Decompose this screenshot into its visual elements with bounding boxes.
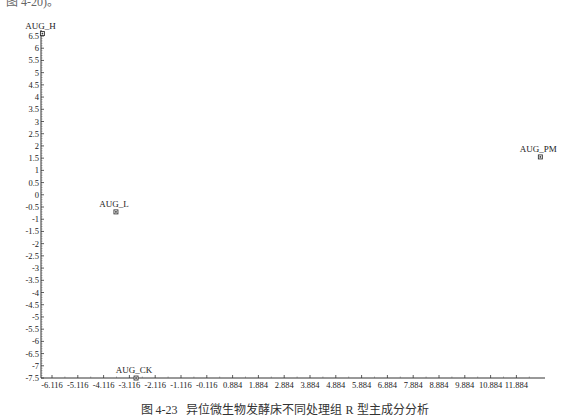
- x-tick-label: -5.116: [67, 380, 89, 390]
- x-tick-label: -0.116: [196, 380, 218, 390]
- x-tick-label: 0.884: [223, 380, 243, 390]
- pca-scatter-chart: 6.565.554.543.532.521.510.50-0.5-1-1.5-2…: [0, 0, 569, 400]
- x-tick-label: 1.884: [249, 380, 269, 390]
- y-tick-label: 5: [35, 68, 39, 78]
- y-tick-label: 6: [35, 43, 39, 53]
- y-tick-label: -6.5: [26, 349, 39, 359]
- x-tick-label: 9.884: [455, 380, 475, 390]
- y-tick-label: 3.5: [28, 104, 39, 114]
- y-tick-label: 4.5: [28, 80, 39, 90]
- data-points: AUG_HAUG_LAUG_CKAUG_PM: [25, 21, 557, 380]
- y-tick-label: -5: [32, 312, 39, 322]
- y-tick-label: 1: [35, 165, 39, 175]
- point-label: AUG_PM: [520, 144, 557, 154]
- x-tick-label: 6.884: [378, 380, 398, 390]
- y-tick-label: 2: [35, 141, 39, 151]
- x-tick-label: 2.884: [275, 380, 295, 390]
- x-tick-label: 5.884: [352, 380, 372, 390]
- x-tick-label: 4.884: [326, 380, 346, 390]
- x-tick-label: 8.884: [429, 380, 449, 390]
- y-tick-label: -2.5: [26, 251, 39, 261]
- y-tick-label: -3: [32, 263, 39, 273]
- data-point-aug-l: AUG_L: [99, 199, 129, 214]
- y-tick-label: 4: [35, 92, 40, 102]
- y-tick-label: 2.5: [28, 129, 39, 139]
- y-tick-label: -1.5: [26, 226, 39, 236]
- y-tick-label: 0.5: [28, 178, 39, 188]
- x-tick-label: 7.884: [404, 380, 424, 390]
- y-tick-label: 1.5: [28, 153, 39, 163]
- x-tick-label: -2.116: [144, 380, 166, 390]
- point-label: AUG_L: [99, 199, 129, 209]
- y-tick-label: -7.5: [26, 373, 39, 383]
- x-tick-label: 10.884: [479, 380, 503, 390]
- point-label: AUG_H: [25, 21, 56, 31]
- x-tick-label: -4.116: [93, 380, 115, 390]
- y-tick-label: -6: [32, 336, 39, 346]
- y-tick-label: -2: [32, 239, 39, 249]
- x-tick-label: -3.116: [119, 380, 141, 390]
- x-tick-label: -6.116: [41, 380, 63, 390]
- y-tick-label: -5.5: [26, 324, 39, 334]
- y-tick-label: 0: [35, 190, 39, 200]
- y-tick-label: -0.5: [26, 202, 39, 212]
- data-point-aug-pm: AUG_PM: [520, 144, 557, 159]
- x-tick-label: -1.116: [170, 380, 192, 390]
- x-tick-label: 11.884: [505, 380, 529, 390]
- y-tick-label: -7: [32, 361, 39, 371]
- y-tick-label: -3.5: [26, 275, 39, 285]
- x-tick-label: 3.884: [300, 380, 320, 390]
- y-tick-label: -4: [32, 288, 40, 298]
- y-tick-label: -1: [32, 214, 39, 224]
- y-tick-label: 3: [35, 117, 39, 127]
- y-tick-label: 6.5: [28, 31, 39, 41]
- x-axis-ticks: -6.116-5.116-4.116-3.116-2.116-1.116-0.1…: [41, 375, 529, 390]
- y-tick-label: -4.5: [26, 300, 39, 310]
- figure-caption: 图 4-23 异位微生物发酵床不同处理组 R 型主成分分析: [0, 400, 569, 418]
- point-label: AUG_CK: [116, 365, 153, 375]
- y-tick-label: 5.5: [28, 55, 39, 65]
